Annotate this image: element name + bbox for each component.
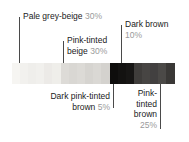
swatch [12, 63, 20, 84]
swatch [69, 63, 77, 84]
label-dark-pink-tinted-brown: Dark pink-tinted brown 5% [22, 91, 110, 112]
swatch [77, 63, 85, 84]
label-pink-tinted-beige-line2: beige [67, 46, 88, 56]
label-pink-tinted-brown: Pink- tinted brown 25% [118, 88, 157, 130]
label-dark-brown-name: Dark brown [125, 19, 168, 30]
swatch [126, 63, 134, 84]
colour-proportion-figure: Pale grey-beige 30% Pink-tinted beige 30… [0, 0, 189, 142]
leader-line-pale-grey-beige [19, 17, 20, 65]
leader-line-dark-pink-tinted-brown [113, 82, 114, 108]
label-pink-tinted-brown-line3: brown [118, 109, 157, 120]
swatch [93, 63, 101, 84]
label-pale-grey-beige-percent: 30% [85, 11, 102, 21]
swatch [61, 63, 69, 84]
leader-line-pink-tinted-beige [63, 41, 64, 65]
swatch [118, 63, 126, 84]
swatch [166, 63, 175, 84]
swatch [110, 63, 118, 84]
label-pink-tinted-beige: Pink-tinted beige 30% [67, 35, 107, 56]
swatch [142, 63, 150, 84]
colour-strip [12, 63, 175, 84]
label-dark-pink-tinted-brown-line1: Dark pink-tinted [22, 91, 110, 102]
label-pale-grey-beige-name: Pale grey-beige [23, 11, 83, 21]
swatch [52, 63, 61, 84]
label-dark-pink-tinted-brown-line2: brown [72, 102, 95, 112]
swatch [44, 63, 52, 84]
swatch [101, 63, 110, 84]
label-pale-grey-beige: Pale grey-beige 30% [23, 11, 102, 22]
swatch [150, 63, 158, 84]
swatch [36, 63, 44, 84]
swatch [158, 63, 166, 84]
label-pink-tinted-brown-line1: Pink- [118, 88, 157, 99]
leader-line-pink-tinted-brown [160, 82, 161, 129]
label-pink-tinted-beige-percent: 30% [90, 46, 107, 56]
label-dark-brown: Dark brown 10% [125, 19, 168, 40]
label-pink-tinted-brown-percent: 25% [118, 120, 157, 131]
swatch [85, 63, 93, 84]
label-pink-tinted-brown-line2: tinted [118, 99, 157, 110]
swatch [134, 63, 142, 84]
label-dark-pink-tinted-brown-percent: 5% [98, 102, 110, 112]
swatch [20, 63, 28, 84]
label-dark-brown-percent: 10% [125, 30, 168, 41]
swatch [28, 63, 36, 84]
label-pink-tinted-beige-line1: Pink-tinted [67, 35, 107, 46]
